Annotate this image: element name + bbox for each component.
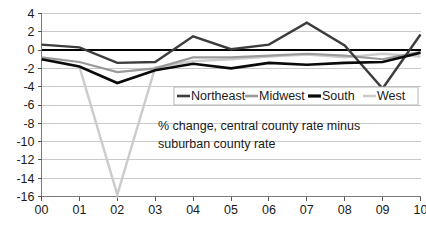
y-axis-tick-label: -4 xyxy=(23,80,34,94)
x-axis-tick-label: 06 xyxy=(262,203,276,217)
chart-legend: NortheastMidwestSouthWest xyxy=(174,87,418,105)
x-axis-tick-labels: 0001020304050607080910 xyxy=(35,203,426,217)
series-lines-group xyxy=(42,23,421,195)
y-axis-ticks xyxy=(38,14,42,197)
x-axis-tick-label: 09 xyxy=(376,203,390,217)
y-axis-tick-label: -14 xyxy=(16,172,34,186)
y-axis-tick-label: -8 xyxy=(23,117,34,131)
x-axis-tick-label: 02 xyxy=(110,203,124,217)
x-axis-tick-label: 10 xyxy=(414,203,426,217)
annotation-line-1: % change, central county rate minus xyxy=(158,119,360,133)
legend-label-northeast: Northeast xyxy=(191,89,246,103)
y-axis-tick-label: -2 xyxy=(23,62,34,76)
legend-label-south: South xyxy=(322,89,355,103)
legend-label-midwest: Midwest xyxy=(259,89,305,103)
x-axis-tick-label: 00 xyxy=(35,203,49,217)
legend-label-west: West xyxy=(377,89,406,103)
y-axis-tick-label: 2 xyxy=(28,25,35,39)
y-axis-tick-label: -10 xyxy=(16,135,34,149)
x-axis-tick-label: 05 xyxy=(224,203,238,217)
y-axis-tick-label: 4 xyxy=(28,7,35,21)
x-axis-tick-label: 03 xyxy=(148,203,162,217)
line-chart: 420-2-4-6-8-10-12-14-16 0001020304050607… xyxy=(0,0,426,234)
y-axis-tick-label: -16 xyxy=(16,190,34,204)
y-axis-tick-label: 0 xyxy=(28,43,35,57)
x-axis-tick-label: 07 xyxy=(300,203,314,217)
x-axis-tick-label: 01 xyxy=(72,203,86,217)
annotation-line-2: suburban county rate xyxy=(158,137,275,151)
x-axis-tick-label: 04 xyxy=(186,203,200,217)
y-axis-tick-labels: 420-2-4-6-8-10-12-14-16 xyxy=(16,7,34,204)
y-axis-tick-label: -12 xyxy=(16,153,34,167)
x-axis-ticks xyxy=(42,197,421,201)
x-axis-tick-label: 08 xyxy=(338,203,352,217)
y-axis-tick-label: -6 xyxy=(23,98,34,112)
chart-annotation: % change, central county rate minussubur… xyxy=(158,119,360,151)
chart-container: 420-2-4-6-8-10-12-14-16 0001020304050607… xyxy=(0,0,426,234)
